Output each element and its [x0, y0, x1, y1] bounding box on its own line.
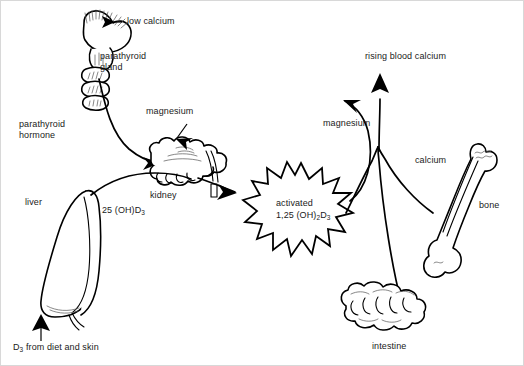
label-bone: bone [479, 200, 499, 211]
label-parathyroid-gland-text: parathyroidgland [100, 51, 146, 72]
label-d3-from-diet-and-skin: D3 from diet and skin [13, 342, 99, 353]
kidney-graphic [150, 137, 227, 197]
label-activated-line1: activated [276, 198, 313, 208]
label-calcium: calcium [415, 155, 446, 166]
label-d3-prefix: D [13, 342, 20, 352]
label-activated-sub2: 3 [327, 214, 331, 221]
intestine-to-blood-calcium-flow [378, 147, 401, 301]
label-magnesium-left: magnesium [146, 106, 193, 117]
label-magnesium-right: magnesium [323, 118, 370, 129]
activated-to-magnesium-flow [343, 100, 370, 201]
label-liver: liver [25, 197, 42, 208]
label-kidney: kidney [150, 190, 177, 201]
activated-to-targets-flow [346, 147, 378, 213]
label-activated-sub1: 2 [316, 214, 320, 221]
label-activated-formula-b: D [320, 210, 327, 220]
label-parathyroid-hormone: parathyroidhormone [19, 119, 65, 141]
label-intestine: intestine [372, 341, 406, 352]
liver-graphic [41, 191, 101, 330]
rising-blood-calcium-arrow [371, 73, 389, 151]
intestine-graphic [341, 282, 425, 330]
label-d3-subscript: 3 [20, 346, 24, 353]
label-low-calcium: low calcium [127, 16, 175, 27]
label-d3-rest: from diet and skin [23, 342, 98, 352]
d3-source-arrow [32, 314, 50, 341]
label-rising-blood-calcium: rising blood calcium [365, 51, 446, 62]
label-25-oh-d3-subscript: 3 [141, 209, 145, 216]
label-25-oh-d3: 25 (OH)D3 [102, 205, 145, 216]
diagram-canvas: low calcium parathyroidgland parathyroid… [0, 0, 524, 366]
label-parathyroid-hormone-text: parathyroidhormone [19, 119, 65, 140]
label-25-oh-d3-text: 25 (OH)D [102, 205, 141, 215]
label-parathyroid-gland: parathyroidgland [100, 51, 146, 73]
label-activated-vitamin-d: activated1,25 (OH)2D3 [276, 197, 330, 221]
label-activated-formula-a: 1,25 (OH) [276, 210, 316, 220]
